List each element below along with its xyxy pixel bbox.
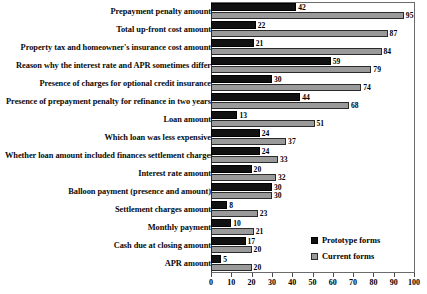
x-axis-tick <box>353 273 354 277</box>
bar-proto <box>211 237 246 245</box>
x-axis-tick-label: 30 <box>268 278 276 287</box>
bar-proto <box>211 219 231 227</box>
chart-row: Prepayment penalty amount4295 <box>0 3 427 21</box>
category-label: Settlement charges amount <box>5 201 211 219</box>
category-label: Total up-front cost amount <box>5 21 211 39</box>
chart-row: Whether loan amount included finances se… <box>0 147 427 165</box>
bar-value-label: 33 <box>280 156 288 164</box>
x-axis-tick <box>272 273 273 277</box>
x-axis-tick <box>292 273 293 277</box>
x-axis-tick <box>414 273 415 277</box>
chart-row: Property tax and homeowner's insurance c… <box>0 39 427 57</box>
bar-value-label: 21 <box>256 228 264 236</box>
bar-value-label: 10 <box>233 220 241 228</box>
bar-value-label: 84 <box>384 48 392 56</box>
bar-proto <box>211 201 227 209</box>
bar-current <box>211 30 388 38</box>
x-axis-tick <box>394 273 395 277</box>
bar-current <box>211 66 371 74</box>
chart-row: Loan amount1351 <box>0 111 427 129</box>
x-axis-tick <box>252 273 253 277</box>
legend-swatch-icon <box>311 237 318 244</box>
category-label: Cash due at closing amount <box>5 237 211 255</box>
bar-value-label: 13 <box>239 112 247 120</box>
category-label: Which loan was less expensive <box>5 129 211 147</box>
bar-value-label: 74 <box>363 84 371 92</box>
legend-item-current-forms: Current forms <box>311 250 380 263</box>
bar-value-label: 20 <box>254 166 262 174</box>
category-label: Presence of charges for optional credit … <box>5 75 211 93</box>
bar-value-label: 37 <box>288 138 296 146</box>
bar-value-label: 8 <box>229 202 233 210</box>
bar-current <box>211 246 252 254</box>
x-axis-tick <box>313 273 314 277</box>
x-axis-tick-label: 10 <box>227 278 235 287</box>
bar-proto <box>211 183 272 191</box>
x-axis-tick <box>333 273 334 277</box>
category-label: Property tax and homeowner's insurance c… <box>5 39 211 57</box>
legend-swatch-icon <box>311 253 318 260</box>
category-label: Prepayment penalty amount <box>5 3 211 21</box>
bar-current <box>211 210 258 218</box>
bar-value-label: 59 <box>333 58 341 66</box>
x-axis-tick-label: 40 <box>288 278 296 287</box>
chart-row: Presence of prepayment penalty for refin… <box>0 93 427 111</box>
x-axis-tick <box>211 273 212 277</box>
bar-value-label: 68 <box>351 102 359 110</box>
category-label: Whether loan amount included finances se… <box>5 147 211 165</box>
x-axis-tick-label: 70 <box>349 278 357 287</box>
bar-value-label: 51 <box>317 120 325 128</box>
x-axis-tick-label: 20 <box>248 278 256 287</box>
bar-proto <box>211 75 272 83</box>
legend-label: Current forms <box>322 252 374 261</box>
bar-value-label: 44 <box>302 94 310 102</box>
bar-proto <box>211 129 260 137</box>
chart-row: Reason why the interest rate and APR som… <box>0 57 427 75</box>
chart-row: Total up-front cost amount2287 <box>0 21 427 39</box>
bar-proto <box>211 255 221 263</box>
legend-item-prototype-forms: Prototype forms <box>311 234 380 247</box>
category-label: Monthly payment <box>5 219 211 237</box>
category-label: Interest rate amount <box>5 165 211 183</box>
bar-proto <box>211 57 331 65</box>
bar-current <box>211 120 315 128</box>
bar-proto <box>211 93 300 101</box>
bar-proto <box>211 147 260 155</box>
bar-current <box>211 12 404 20</box>
legend-label: Prototype forms <box>322 236 380 245</box>
bar-value-label: 20 <box>254 264 262 272</box>
bar-proto <box>211 39 254 47</box>
bar-current <box>211 228 254 236</box>
bar-proto <box>211 111 237 119</box>
bar-value-label: 20 <box>254 246 262 254</box>
bar-value-label: 30 <box>274 76 282 84</box>
x-axis-tick-label: 80 <box>369 278 377 287</box>
bar-value-label: 21 <box>256 40 264 48</box>
chart-row: Which loan was less expensive2437 <box>0 129 427 147</box>
bar-value-label: 32 <box>278 174 286 182</box>
bar-value-label: 5 <box>223 256 227 264</box>
bar-value-label: 79 <box>373 66 381 74</box>
bar-current <box>211 48 382 56</box>
bar-value-label: 24 <box>262 130 270 138</box>
bar-current <box>211 102 349 110</box>
bar-current <box>211 174 276 182</box>
bar-value-label: 42 <box>298 4 306 12</box>
bar-current <box>211 84 361 92</box>
category-label: APR amount <box>5 255 211 273</box>
x-axis-tick-label: 100 <box>408 278 420 287</box>
bar-current <box>211 192 272 200</box>
bar-chart: Prepayment penalty amount4295Total up-fr… <box>0 0 427 294</box>
x-axis-tick <box>231 273 232 277</box>
bar-current <box>211 156 278 164</box>
chart-row: Balloon payment (presence and amount)303… <box>0 183 427 201</box>
category-label: Reason why the interest rate and APR som… <box>5 57 211 75</box>
x-axis-tick-label: 50 <box>309 278 317 287</box>
category-label: Loan amount <box>5 111 211 129</box>
category-label: Balloon payment (presence and amount) <box>5 183 211 201</box>
bar-proto <box>211 3 296 11</box>
chart-row: Presence of charges for optional credit … <box>0 75 427 93</box>
category-label: Presence of prepayment penalty for refin… <box>5 93 211 111</box>
bar-proto <box>211 21 256 29</box>
chart-legend: Prototype forms Current forms <box>311 234 380 266</box>
